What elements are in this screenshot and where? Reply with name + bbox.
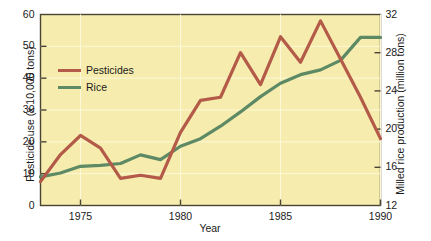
y-left-tick-label: 40 (5, 71, 35, 83)
y-left-tick-label: 60 (5, 8, 35, 20)
chart-legend: Pesticides Rice (58, 62, 168, 96)
x-tick-label: 1990 (361, 210, 401, 222)
legend-swatch-rice (58, 86, 81, 90)
legend-item-pesticides: Pesticides (58, 62, 168, 79)
y-left-tick-label: 0 (5, 199, 35, 211)
y-right-tick-label: 20 (386, 122, 416, 134)
x-tick-label: 1985 (261, 210, 301, 222)
legend-item-rice: Rice (58, 79, 168, 96)
y-right-tick-label: 28 (386, 46, 416, 58)
y-right-tick-label: 32 (386, 8, 416, 20)
y-left-tick-label: 10 (5, 167, 35, 179)
legend-label-rice: Rice (86, 82, 107, 93)
x-tick-label: 1980 (161, 210, 201, 222)
y-left-tick-label: 50 (5, 39, 35, 51)
legend-swatch-pesticides (58, 69, 81, 73)
y-left-tick-label: 30 (5, 103, 35, 115)
y-right-tick-label: 16 (386, 160, 416, 172)
plot-area (0, 0, 431, 241)
x-tick-label: 1975 (61, 210, 101, 222)
y-right-tick-label: 24 (386, 84, 416, 96)
y-left-tick-label: 20 (5, 135, 35, 147)
chart-container: Pesticide use (x 10,000 tons) Milled ric… (0, 0, 431, 241)
legend-label-pesticides: Pesticides (86, 65, 134, 76)
